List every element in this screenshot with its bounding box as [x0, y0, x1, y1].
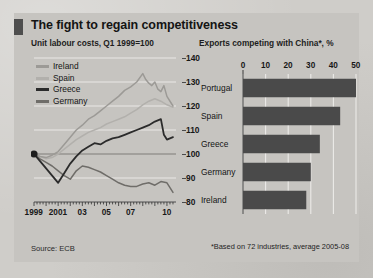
legend-label-ireland: Ireland	[53, 61, 79, 73]
source-note: Source: ECB	[31, 244, 75, 253]
y-tick-mark-80	[182, 202, 186, 203]
legend-label-greece: Greece	[53, 84, 80, 96]
title-accent-bar	[14, 19, 23, 35]
y-tick-mark-140	[182, 58, 186, 59]
legend-label-germany: Germany	[53, 96, 87, 108]
x-tick-label-2001: 2001	[49, 208, 67, 217]
y-tick-mark-110	[182, 130, 186, 131]
bar-category-ireland: Ireland	[201, 195, 227, 205]
chart-panel: The fight to regain competitiveness Unit…	[14, 13, 359, 262]
bar-x-tick-30: 30	[306, 61, 315, 70]
bar-x-tick-10: 10	[261, 61, 270, 70]
chart-figure: The fight to regain competitiveness Unit…	[0, 0, 373, 278]
bar-x-tick-20: 20	[284, 61, 293, 70]
footnote: *Based on 72 industries, average 2005-08	[211, 242, 349, 251]
y-tick-mark-100	[182, 154, 186, 155]
y-tick-label-80: 80	[186, 197, 195, 207]
y-tick-mark-130	[182, 82, 186, 83]
left-chart-subtitle: Unit labour costs, Q1 1999=100	[31, 38, 154, 48]
legend-item-greece: Greece	[36, 84, 116, 96]
line-chart-legend: Ireland Spain Greece Germany	[36, 61, 116, 107]
y-tick-label-130: 130	[186, 77, 200, 87]
legend-swatch-greece	[36, 88, 49, 91]
bar-category-spain: Spain	[201, 111, 222, 121]
bar-x-tick-40: 40	[329, 61, 338, 70]
bar-category-portugal: Portugal	[201, 83, 232, 93]
legend-item-ireland: Ireland	[36, 61, 116, 73]
x-tick-label-03: 03	[78, 208, 87, 217]
bar-x-tick-0: 0	[241, 61, 246, 70]
legend-item-germany: Germany	[36, 96, 116, 108]
right-chart-subtitle: Exports competing with China*, %	[199, 38, 334, 48]
legend-swatch-spain	[36, 77, 49, 80]
legend-swatch-ireland	[36, 65, 49, 68]
bar-category-greece: Greece	[201, 139, 228, 149]
y-tick-label-110: 110	[186, 125, 200, 135]
y-tick-label-100: 100	[186, 149, 200, 159]
y-tick-mark-90	[182, 178, 186, 179]
y-tick-label-120: 120	[186, 101, 200, 111]
page-title: The fight to regain competitiveness	[31, 18, 238, 32]
bar-x-tick-50: 50	[351, 61, 360, 70]
x-tick-label-05: 05	[102, 208, 111, 217]
title-row: The fight to regain competitiveness	[14, 18, 359, 36]
x-tick-label-07: 07	[126, 208, 135, 217]
y-tick-mark-120	[182, 106, 186, 107]
y-tick-label-90: 90	[186, 173, 195, 183]
x-tick-label-1999: 1999	[25, 208, 43, 217]
bar-category-germany: Germany	[201, 167, 235, 177]
legend-swatch-germany	[36, 100, 49, 103]
legend-label-spain: Spain	[53, 73, 74, 85]
legend-item-spain: Spain	[36, 73, 116, 85]
x-tick-label-10: 10	[162, 208, 171, 217]
y-tick-label-140: 140	[186, 53, 200, 63]
